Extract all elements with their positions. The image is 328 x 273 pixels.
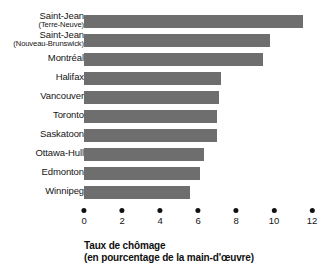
bar [84,167,200,180]
x-axis-tick: 0 [81,208,86,226]
bar [84,129,217,142]
x-axis-caption: Taux de chômage (en pourcentage de la ma… [84,240,324,264]
category-label: Saskatoon [0,129,84,139]
tick-dot-icon [272,208,277,213]
bar [84,53,263,66]
category-label-line-1: Winnipeg [0,186,84,196]
tick-dot-icon [120,208,125,213]
bar [84,34,270,47]
category-label: Vancouver [0,91,84,101]
category-label: Edmonton [0,167,84,177]
bar [84,72,221,85]
category-label-line-1: Edmonton [0,167,84,177]
category-label: Saint-Jean(Nouveau-Brunswick) [0,30,84,48]
caption-line-1: Taux de chômage [84,240,324,252]
x-axis-tick: 4 [157,208,162,226]
unemployment-bar-chart: Saint-Jean(Terre-Neuve)Saint-Jean(Nouvea… [0,0,328,273]
plot-area: Saint-Jean(Terre-Neuve)Saint-Jean(Nouvea… [0,12,328,208]
bar-row: Saskatoon [0,126,328,145]
bar-row: Winnipeg [0,183,328,202]
category-label-line-2: (Terre-Neuve) [0,21,84,29]
x-axis-tick-label: 2 [119,216,124,226]
x-axis-tick: 8 [233,208,238,226]
tick-dot-icon [310,208,315,213]
x-axis-tick-label: 6 [195,216,200,226]
bar [84,110,217,123]
tick-dot-icon [158,208,163,213]
tick-dot-icon [234,208,239,213]
category-label: Toronto [0,110,84,120]
x-axis-tick: 10 [269,208,279,226]
category-label-line-1: Vancouver [0,91,84,101]
category-label: Montréal [0,53,84,63]
x-axis-tick: 6 [195,208,200,226]
tick-dot-icon [196,208,201,213]
bar [84,15,303,28]
category-label-line-1: Toronto [0,110,84,120]
category-label-line-2: (Nouveau-Brunswick) [0,40,84,48]
x-axis-tick-label: 10 [269,216,279,226]
bar-row: Halifax [0,69,328,88]
category-label: Winnipeg [0,186,84,196]
bar [84,186,190,199]
bar [84,148,204,161]
bar-row: Vancouver [0,88,328,107]
x-axis-tick-label: 12 [307,216,317,226]
category-label-line-1: Halifax [0,72,84,82]
bar-row: Montréal [0,50,328,69]
x-axis-tick: 12 [307,208,317,226]
category-label-line-1: Saskatoon [0,129,84,139]
bar-row: Saint-Jean(Nouveau-Brunswick) [0,31,328,50]
bar-row: Ottawa-Hull [0,145,328,164]
x-axis-tick-label: 8 [233,216,238,226]
x-axis: 024681012 [0,208,328,234]
category-label: Ottawa-Hull [0,148,84,158]
bar [84,91,219,104]
x-axis-tick-label: 4 [157,216,162,226]
caption-line-2: (en pourcentage de la main-d'œuvre) [84,252,324,264]
bar-row: Edmonton [0,164,328,183]
x-axis-tick-label: 0 [81,216,86,226]
category-label: Halifax [0,72,84,82]
x-axis-tick: 2 [119,208,124,226]
category-label-line-1: Ottawa-Hull [0,148,84,158]
bar-row: Toronto [0,107,328,126]
category-label: Saint-Jean(Terre-Neuve) [0,11,84,29]
tick-dot-icon [82,208,87,213]
category-label-line-1: Montréal [0,53,84,63]
